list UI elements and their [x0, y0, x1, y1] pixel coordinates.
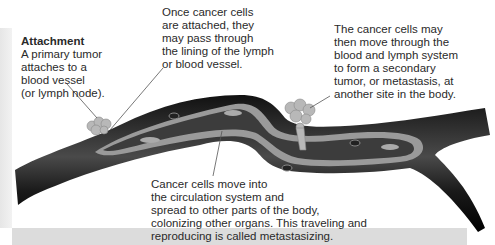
- label-attachment-title: Attachment: [21, 35, 105, 48]
- label-attachment-text: A primary tumor attaches to a blood vess…: [21, 48, 105, 99]
- vessel-pore: [169, 113, 179, 119]
- leader-line-secondary: [310, 96, 330, 108]
- label-secondary-tumor: The cancer cells may then move through t…: [334, 23, 458, 101]
- label-pass-through: Once cancer cells are attached, they may…: [162, 6, 274, 71]
- label-attachment: AttachmentA primary tumor attaches to a …: [21, 22, 105, 100]
- vessel-pore: [350, 140, 360, 146]
- cancer-cell: [224, 110, 242, 116]
- cancer-cell: [381, 144, 399, 150]
- label-circulation: Cancer cells move into the circulation s…: [151, 178, 367, 243]
- vessel-pore: [282, 165, 292, 171]
- cancer-cell: [140, 137, 160, 143]
- primary-tumor: [87, 117, 111, 135]
